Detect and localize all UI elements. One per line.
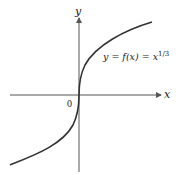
x-axis-label: x (164, 88, 171, 101)
cube-root-curve (10, 22, 152, 165)
function-label: y = f(x) = x1/3 (102, 50, 169, 62)
origin-label: 0 (67, 98, 72, 109)
function-graph: y x 0 y = f(x) = x1/3 (0, 0, 176, 175)
y-axis-label: y (74, 5, 82, 18)
